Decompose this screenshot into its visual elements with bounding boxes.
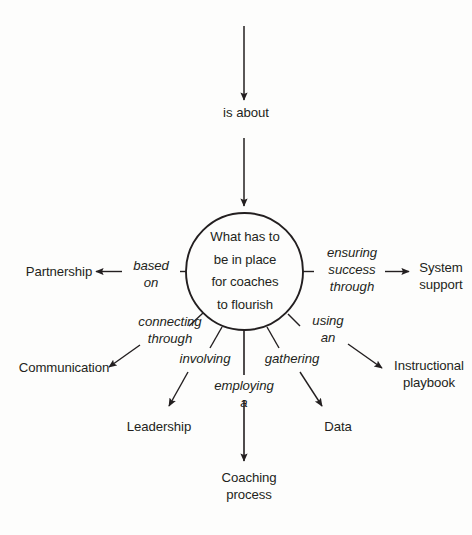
edge-gathering-to-data: [300, 372, 322, 406]
node-leadership: Leadership: [122, 419, 196, 436]
hub-label: What has to be in place for coaches to f…: [186, 226, 304, 317]
node-system-support: System support: [406, 260, 472, 294]
node-instructional-playbook: Instructional playbook: [386, 358, 472, 392]
node-coaching-process: Coaching process: [196, 470, 302, 504]
hub-line-2: be in place: [186, 249, 304, 272]
connector-label-involving: involving: [170, 351, 240, 368]
hub-line-1: What has to: [186, 226, 304, 249]
connector-label-based-on: based on: [124, 258, 178, 292]
connector-label-connecting-through: connecting through: [124, 314, 216, 348]
connector-label-ensuring-success-through: ensuring success through: [316, 245, 388, 296]
hub-line-3: for coaches: [186, 271, 304, 294]
connector-label-gathering: gathering: [256, 351, 328, 368]
connector-label-using-an: using an: [304, 313, 352, 347]
edge-involving-to-leadership: [169, 372, 188, 406]
connector-label-is-about: is about: [198, 105, 294, 122]
connector-label-employing-a: employing a: [204, 378, 284, 412]
node-communication: Communication: [10, 360, 118, 377]
edge-hub-to-gathering: [267, 327, 279, 348]
node-partnership: Partnership: [16, 264, 102, 281]
edge-using-an-to-instructional: [348, 344, 382, 368]
concept-map-diagram: What has to be in place for coaches to f…: [0, 0, 472, 535]
node-data: Data: [310, 419, 366, 436]
